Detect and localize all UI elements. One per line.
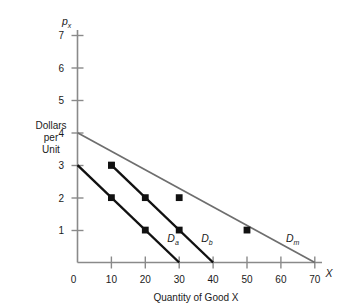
y-tick-label-5: 5 xyxy=(58,95,64,106)
x-axis-title: Quantity of Good X xyxy=(153,292,238,303)
x-tick-label-10: 10 xyxy=(106,274,118,285)
curve-db-marker-10-3 xyxy=(108,162,115,169)
demand-curves-chart: 7 6 5 4 3 2 1 0 10 20 30 40 50 60 70 px … xyxy=(0,0,351,308)
y-tick-label-2: 2 xyxy=(58,193,64,204)
y-tick-label-1: 1 xyxy=(58,225,64,236)
x-tick-label-40: 40 xyxy=(208,274,220,285)
y-axis-title-line-3: Unit xyxy=(42,144,60,155)
curve-db-marker-20-2 xyxy=(142,194,149,201)
x-tick-label-30: 30 xyxy=(174,274,186,285)
x-tick-label-60: 60 xyxy=(275,274,287,285)
y-axis-title-line-2: per xyxy=(44,132,59,143)
curve-da-marker-10-2 xyxy=(108,194,115,201)
y-tick-label-3: 3 xyxy=(58,160,64,171)
curve-da-marker-20-1 xyxy=(142,227,149,234)
x-tick-label-0: 0 xyxy=(71,274,77,285)
y-axis-title-line-1: Dollars xyxy=(35,120,66,131)
y-tick-label-7: 7 xyxy=(58,30,64,41)
curve-dm-marker-50-1 xyxy=(244,227,251,234)
curve-dm-marker-30-2 xyxy=(176,194,183,201)
x-tick-label-50: 50 xyxy=(241,274,253,285)
x-axis-symbol: X xyxy=(324,267,333,279)
y-tick-label-6: 6 xyxy=(58,63,64,74)
curve-db-marker-30-1 xyxy=(176,227,183,234)
x-tick-label-20: 20 xyxy=(140,274,152,285)
x-tick-label-70: 70 xyxy=(309,274,321,285)
